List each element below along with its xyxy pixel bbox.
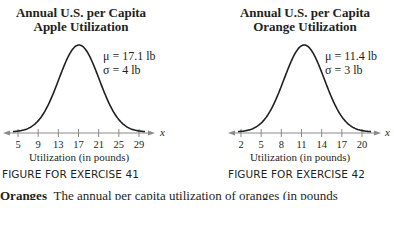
chart1-tick-label: 21: [93, 139, 104, 150]
chart1-tick-label: 5: [15, 139, 20, 150]
exercise-body-text: Oranges The annual per capita utilizatio…: [0, 188, 338, 200]
chart2-axis-arrow-left: [228, 131, 235, 136]
chart2-tick-label: 20: [357, 139, 368, 150]
chart2-tick-label: 5: [259, 139, 264, 150]
chart2-xlabel: Utilization (in pounds): [250, 151, 351, 164]
chart1-tick-label: 25: [114, 139, 125, 150]
chart2-tick-label: 14: [316, 139, 327, 150]
chart1-tick-label: 17: [73, 139, 84, 150]
chart2-tick-label: 17: [337, 139, 348, 150]
chart1-sd-annotation: σ = 4 lb: [103, 63, 141, 77]
chart1-axis-var-label: x: [159, 126, 165, 138]
chart1-axis-arrow-right: [148, 131, 155, 136]
chart2-sd-annotation: σ = 3 lb: [325, 63, 363, 77]
exercise-text: The annual per capita utilization of ora…: [53, 188, 337, 200]
chart1-xlabel: Utilization (in pounds): [29, 151, 130, 164]
chart2-caption: FIGURE FOR EXERCISE 42: [228, 168, 365, 180]
chart2-tick-label: 2: [238, 139, 243, 150]
chart1-caption: FIGURE FOR EXERCISE 41: [2, 168, 139, 180]
exercise-lead: Oranges: [0, 188, 47, 200]
chart2-tick-label: 11: [296, 139, 306, 150]
chart2-tick-label: 8: [279, 139, 284, 150]
chart2-axis-arrow-right: [374, 131, 381, 136]
chart1-tick-label: 9: [36, 139, 41, 150]
chart1-tick-label: 13: [53, 139, 64, 150]
chart2-mean-annotation: μ = 11.4 lb: [325, 49, 377, 63]
chart1-mean-annotation: μ = 17.1 lb: [103, 49, 156, 63]
chart1-axis-arrow-left: [3, 131, 10, 136]
chart2-axis-var-label: x: [384, 126, 390, 138]
chart1-tick-label: 29: [134, 139, 145, 150]
